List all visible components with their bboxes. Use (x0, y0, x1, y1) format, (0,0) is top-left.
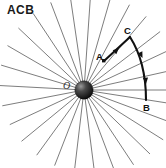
central-mass-sphere (75, 81, 93, 99)
curve-c-to-b (130, 37, 146, 100)
trajectory-path (104, 37, 146, 100)
label-point-c: C (124, 26, 131, 36)
central-force-path-figure: ACB A C B O (0, 0, 166, 168)
label-origin-o: O (63, 81, 70, 91)
figure-title: ACB (7, 3, 34, 17)
arrow-on-curve-lower (143, 78, 149, 85)
label-point-a: A (96, 52, 103, 62)
path-direction-arrows (113, 46, 149, 84)
label-point-b: B (143, 103, 150, 113)
figure-canvas (0, 0, 166, 168)
